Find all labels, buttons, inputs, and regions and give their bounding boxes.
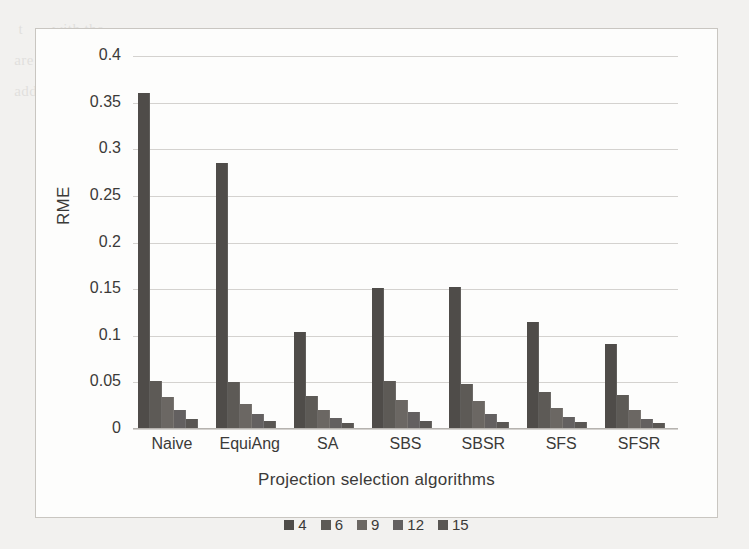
x-axis-tick-label: Naive (133, 435, 211, 453)
y-axis-tick-label: 0.25 (36, 186, 121, 204)
bar-group (527, 56, 587, 429)
x-axis-tick-label: SFSR (600, 435, 678, 453)
bar-group (449, 56, 509, 429)
legend-label: 12 (407, 516, 424, 533)
legend-item: 15 (438, 516, 469, 533)
bar (138, 93, 150, 429)
x-axis-tick-label: EquiAng (211, 435, 289, 453)
bar (551, 408, 563, 429)
legend-item: 6 (321, 516, 343, 533)
x-axis-tick-label: SA (289, 435, 367, 453)
bar-group (605, 56, 665, 429)
legend-swatch-icon (393, 520, 403, 530)
bar (605, 344, 617, 429)
bar (162, 397, 174, 429)
plot-area (133, 56, 678, 429)
legend-item: 9 (357, 516, 379, 533)
bar (527, 322, 539, 429)
y-axis-tick-label: 0.1 (36, 326, 121, 344)
bar (228, 382, 240, 429)
bar (396, 400, 408, 429)
chart-legend: 4691215 (36, 516, 717, 533)
chart-panel: RME 00.050.10.150.20.250.30.350.4 NaiveE… (35, 28, 718, 518)
legend-label: 9 (371, 516, 379, 533)
bar (240, 404, 252, 429)
gridline (133, 429, 678, 430)
x-axis-tick-label: SFS (522, 435, 600, 453)
bar (306, 396, 318, 429)
legend-swatch-icon (284, 520, 294, 530)
bar (252, 414, 264, 429)
y-axis-tick-label: 0.15 (36, 279, 121, 297)
bar (449, 287, 461, 429)
bar (174, 410, 186, 429)
bar (318, 410, 330, 429)
y-axis-tick-label: 0.4 (36, 46, 121, 64)
y-axis-tick-label: 0.05 (36, 372, 121, 390)
bar (617, 395, 629, 429)
bar (629, 410, 641, 429)
legend-item: 4 (284, 516, 306, 533)
bar (372, 288, 384, 429)
bar (539, 392, 551, 429)
x-axis-tick-label: SBSR (444, 435, 522, 453)
y-axis-tick-label: 0.3 (36, 139, 121, 157)
bar (473, 401, 485, 429)
bar (485, 414, 497, 429)
y-axis-tick-label: 0 (36, 419, 121, 437)
bar-group (372, 56, 432, 429)
bar (384, 381, 396, 429)
bar-group (216, 56, 276, 429)
bar-group (294, 56, 354, 429)
legend-label: 4 (298, 516, 306, 533)
legend-label: 15 (452, 516, 469, 533)
legend-label: 6 (335, 516, 343, 533)
bar (461, 384, 473, 429)
x-axis-tick-label: SBS (367, 435, 445, 453)
bar-group (138, 56, 198, 429)
y-axis-tick-label: 0.2 (36, 233, 121, 251)
x-axis-title: Projection selection algorithms (36, 470, 717, 490)
y-axis-tick-label: 0.35 (36, 93, 121, 111)
legend-swatch-icon (438, 520, 448, 530)
bar (408, 412, 420, 429)
legend-item: 12 (393, 516, 424, 533)
bar (216, 163, 228, 429)
legend-swatch-icon (321, 520, 331, 530)
legend-swatch-icon (357, 520, 367, 530)
bar (294, 332, 306, 429)
bar (150, 381, 162, 429)
x-axis-line (133, 428, 678, 429)
